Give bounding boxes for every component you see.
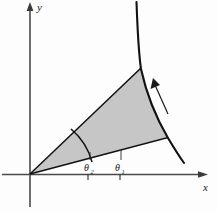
shaded-sector-region — [30, 68, 167, 174]
x-axis-arrowhead — [198, 171, 208, 178]
figure-container: y x θ 2 θ 1 — [0, 0, 218, 211]
theta2-subscript: 2 — [91, 168, 95, 175]
theta2-label: θ — [84, 162, 89, 173]
y-axis-label: y — [36, 1, 42, 13]
y-axis-arrowhead — [27, 2, 34, 11]
direction-arrow-shaft — [155, 85, 168, 114]
direction-arrow-head — [151, 78, 161, 89]
x-axis-label: x — [202, 181, 208, 193]
theta1-subscript: 1 — [122, 168, 125, 175]
figure-canvas: y x θ 2 θ 1 — [0, 0, 218, 211]
theta1-label: θ — [115, 162, 120, 173]
